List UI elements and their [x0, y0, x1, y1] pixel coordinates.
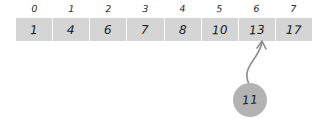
- sorted-array: 1 4 6 7 8 10 13 17: [16, 18, 312, 41]
- array-cell: 8: [165, 18, 201, 41]
- diagram-canvas: 0 1 2 3 4 5 6 7 1 4 6 7 8 10 13 17 11: [0, 0, 328, 119]
- array-cell: 7: [127, 18, 163, 41]
- array-cell-value: 10: [212, 22, 228, 36]
- arrow-head: [257, 41, 266, 49]
- array-cell: 4: [53, 18, 89, 41]
- array-cell: 13: [239, 18, 275, 41]
- array-index-label: 3: [127, 1, 164, 17]
- array-cell-value: 6: [104, 22, 112, 36]
- array-index-label: 1: [53, 1, 90, 17]
- value-to-insert-bubble: 11: [233, 83, 267, 117]
- array-index-label: 5: [201, 0, 239, 17]
- array-cell-value: 17: [286, 22, 302, 37]
- array-cell: 10: [202, 18, 238, 41]
- array-index-label: 6: [238, 0, 276, 16]
- array-cell: 6: [90, 18, 126, 41]
- array-cell-value: 4: [67, 22, 75, 36]
- array-cell-value: 8: [178, 22, 187, 36]
- array-index-label: 0: [16, 0, 54, 16]
- array-cell-value: 1: [30, 22, 39, 36]
- array-cell-value: 13: [249, 22, 266, 37]
- array-index-label: 7: [275, 1, 312, 17]
- value-to-insert-label: 11: [241, 92, 258, 107]
- array-cell: 1: [16, 18, 52, 41]
- array-cell: 17: [276, 18, 312, 41]
- array-index-row: 0 1 2 3 4 5 6 7: [16, 1, 312, 16]
- array-cell-value: 7: [141, 22, 149, 36]
- array-index-label: 4: [164, 0, 202, 16]
- arrow-shaft: [247, 43, 262, 84]
- array-index-label: 2: [90, 0, 128, 17]
